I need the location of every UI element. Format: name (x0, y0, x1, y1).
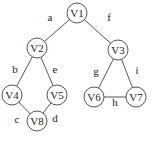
edge-label-h: h (112, 96, 118, 108)
node-label: V6 (87, 91, 101, 103)
node-label: V8 (30, 115, 44, 127)
node-label: V7 (129, 91, 143, 103)
graph-diagram: afbecdgih V1V2V3V4V5V6V7V8 (0, 0, 156, 142)
node-label: V3 (111, 44, 125, 56)
node-label: V5 (50, 89, 64, 101)
edge-label-a: a (48, 11, 53, 23)
edge-label-g: g (93, 65, 99, 77)
node-v1: V1 (67, 3, 87, 23)
node-v7: V7 (126, 87, 146, 107)
node-v6: V6 (84, 87, 104, 107)
node-label: V4 (5, 89, 19, 101)
edge-label-c: c (15, 113, 20, 125)
edge-label-d: d (52, 112, 58, 124)
node-label: V2 (30, 42, 43, 54)
edge-label-i: i (135, 64, 138, 76)
graph-svg: afbecdgih V1V2V3V4V5V6V7V8 (0, 0, 156, 142)
edge-label-e: e (53, 63, 58, 75)
node-v8: V8 (27, 111, 47, 131)
edge-label-f: f (107, 11, 111, 23)
node-v2: V2 (27, 38, 47, 58)
edge-label-b: b (12, 63, 18, 75)
edge-labels-layer: afbecdgih (12, 11, 138, 125)
node-v3: V3 (108, 40, 128, 60)
node-v4: V4 (2, 85, 22, 105)
node-v5: V5 (47, 85, 67, 105)
node-label: V1 (70, 7, 83, 19)
